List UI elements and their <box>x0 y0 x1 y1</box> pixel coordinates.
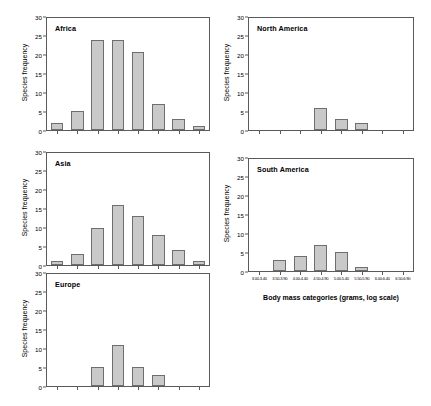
bar-slot <box>372 159 393 271</box>
x-tick-mark <box>382 131 383 134</box>
y-tick-mark <box>43 93 46 94</box>
bar <box>112 345 125 386</box>
bar-series <box>249 159 413 271</box>
y-tick-mark <box>43 55 46 56</box>
y-tick-mark <box>245 272 248 273</box>
y-tick-label: 20 <box>35 187 42 194</box>
y-tick-mark <box>43 368 46 369</box>
y-tick-label: 20 <box>35 52 42 59</box>
y-tick-label: 5 <box>39 244 42 251</box>
bar <box>91 367 104 386</box>
bar <box>112 40 125 130</box>
x-axis <box>249 131 413 141</box>
x-tick-label: 6.00-6.40 <box>375 276 390 281</box>
x-tick-mark <box>98 131 99 134</box>
y-tick-label: 5 <box>241 109 244 116</box>
x-tick-mark <box>259 131 260 134</box>
bar-slot <box>311 18 332 130</box>
bar <box>335 252 348 271</box>
y-tick-mark <box>245 215 248 216</box>
y-tick-mark <box>43 209 46 210</box>
x-tick-mark <box>403 272 404 275</box>
bar-slot <box>67 274 87 386</box>
bar-slot <box>169 153 189 265</box>
y-tick-mark <box>245 93 248 94</box>
bar-slot <box>108 18 128 130</box>
y-tick-mark <box>43 74 46 75</box>
x-tick-mark <box>118 266 119 269</box>
y-tick-mark <box>43 292 46 293</box>
bar-slot <box>331 18 352 130</box>
bar-slot <box>189 153 209 265</box>
y-tick-label: 30 <box>237 155 244 162</box>
bar <box>193 261 206 265</box>
y-tick-mark <box>245 74 248 75</box>
bar-series <box>249 18 413 130</box>
x-tick-mark <box>77 387 78 390</box>
y-tick-label: 10 <box>35 90 42 97</box>
x-tick-mark <box>179 387 180 390</box>
bar <box>355 123 368 130</box>
x-tick-label: 3.50-3.90 <box>272 276 287 281</box>
x-tick-label: 6.50-6.90 <box>395 276 410 281</box>
y-tick-label: 15 <box>237 71 244 78</box>
bar <box>71 111 84 130</box>
x-tick-mark <box>341 272 342 275</box>
y-tick-mark <box>245 158 248 159</box>
x-tick-mark <box>57 131 58 134</box>
x-tick-mark <box>280 131 281 134</box>
y-axis-title: Species frequency <box>223 16 230 130</box>
x-tick-label: 5.00-5.40 <box>334 276 349 281</box>
y-tick-label: 5 <box>39 109 42 116</box>
x-tick-mark <box>118 131 119 134</box>
x-tick-mark <box>179 266 180 269</box>
x-tick-mark <box>57 266 58 269</box>
y-tick-label: 10 <box>35 346 42 353</box>
x-tick-label: 4.50-4.90 <box>313 276 328 281</box>
x-tick-mark <box>362 131 363 134</box>
y-tick-label: 25 <box>35 33 42 40</box>
y-tick-label: 0 <box>39 384 42 391</box>
bar <box>335 119 348 130</box>
x-tick-mark <box>259 272 260 275</box>
x-tick-mark <box>300 131 301 134</box>
bar-series <box>47 153 209 265</box>
y-tick-label: 30 <box>35 270 42 277</box>
x-tick-mark <box>199 387 200 390</box>
y-tick-label: 15 <box>35 327 42 334</box>
bar-slot <box>189 274 209 386</box>
bar-slot <box>47 18 67 130</box>
bar <box>172 250 185 265</box>
x-tick-mark <box>362 272 363 275</box>
y-tick-mark <box>245 234 248 235</box>
y-tick-mark <box>43 266 46 267</box>
y-tick-label: 15 <box>35 206 42 213</box>
bar-slot <box>270 159 291 271</box>
bar-slot <box>331 159 352 271</box>
y-tick-mark <box>245 17 248 18</box>
x-tick-mark <box>158 266 159 269</box>
x-tick-mark <box>118 387 119 390</box>
x-tick-mark <box>199 266 200 269</box>
bar-slot <box>128 153 148 265</box>
bar <box>91 40 104 130</box>
x-tick-label: 3.00-3.40 <box>252 276 267 281</box>
bar-slot <box>290 159 311 271</box>
bar-slot <box>393 159 414 271</box>
bar-slot <box>128 274 148 386</box>
bar-slot <box>249 159 270 271</box>
y-tick-label: 20 <box>237 52 244 59</box>
y-tick-mark <box>43 273 46 274</box>
bar-slot <box>47 153 67 265</box>
bar-slot <box>290 18 311 130</box>
y-tick-mark <box>43 152 46 153</box>
y-tick-mark <box>245 196 248 197</box>
y-tick-label: 10 <box>237 90 244 97</box>
bar-slot <box>148 274 168 386</box>
x-tick-mark <box>158 387 159 390</box>
x-tick-mark <box>382 272 383 275</box>
y-tick-label: 25 <box>35 168 42 175</box>
y-tick-label: 15 <box>35 71 42 78</box>
x-tick-mark <box>77 266 78 269</box>
x-tick-mark <box>138 131 139 134</box>
